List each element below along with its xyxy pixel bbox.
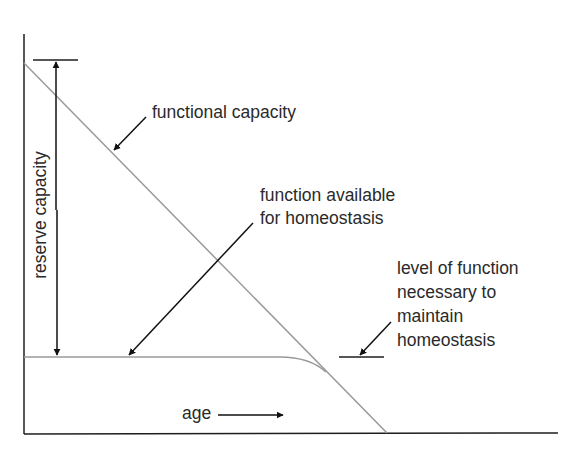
functional-capacity-arrow [114,117,146,150]
level-of-function-label-line3: maintain [397,306,463,327]
x-axis [24,433,558,434]
level-of-function-label-line4: homeostasis [397,330,495,351]
functional-capacity-label: functional capacity [152,102,296,123]
level-arrow [360,322,391,355]
function-available-label-line2: for homeostasis [260,208,384,229]
level-of-function-label-line2: necessary to [397,282,496,303]
reserve-capacity-label: reserve capacity [30,151,51,278]
level-of-function-label-line1: level of function [397,258,519,279]
function-available-arrow [129,223,253,355]
homeostasis-curve [24,357,326,372]
age-label: age [182,403,211,424]
function-available-label-line1: function available [260,185,395,206]
